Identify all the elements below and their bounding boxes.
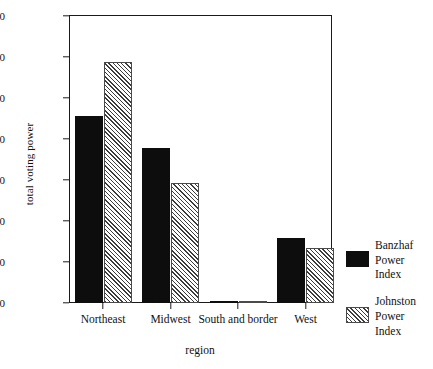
legend-item-johnston: Johnston Power Index [346, 294, 433, 338]
bar-johnston-south-and-border [239, 301, 267, 303]
bar-johnston-northeast [104, 62, 132, 303]
bar-banzhaf-midwest [142, 148, 170, 303]
y-tick-label: .300 [0, 175, 5, 186]
y-tick-label: .700 [0, 11, 5, 22]
x-axis-title: region [0, 344, 400, 356]
x-tick-mark [305, 303, 306, 309]
y-tick-label: .400 [0, 134, 5, 145]
bar-johnston-west [306, 248, 334, 303]
x-tick-label-northeast: Northeast [81, 313, 126, 326]
legend-swatch-johnston [346, 307, 369, 323]
y-axis: .700.600.500.400.300.200.100.000 [0, 0, 69, 369]
legend-item-banzhaf: Banzhaf Power Index [346, 238, 433, 282]
bar-banzhaf-south-and-border [210, 301, 238, 303]
legend-swatch-banzhaf [346, 251, 369, 267]
y-tick-label: .600 [0, 52, 5, 63]
y-tick-label: .100 [0, 257, 5, 268]
chart-legend: Banzhaf Power IndexJohnston Power Index [346, 238, 433, 350]
y-tick-label: .000 [0, 298, 5, 309]
x-tick-label-south-and-border: South and border [198, 313, 277, 326]
x-tick-label-midwest: Midwest [150, 313, 190, 326]
legend-label-banzhaf: Banzhaf Power Index [375, 238, 413, 282]
bar-johnston-midwest [171, 183, 199, 303]
x-tick-mark [237, 303, 238, 309]
y-tick-label: .500 [0, 93, 5, 104]
x-tick-mark [170, 303, 171, 309]
legend-label-johnston: Johnston Power Index [375, 294, 416, 338]
y-tick-label: .200 [0, 216, 5, 227]
bar-banzhaf-northeast [75, 116, 103, 303]
x-tick-mark [102, 303, 103, 309]
bar-banzhaf-west [277, 238, 305, 303]
x-tick-label-west: West [294, 313, 317, 326]
grouped-bar-chart: total voting power .700.600.500.400.300.… [0, 0, 433, 369]
